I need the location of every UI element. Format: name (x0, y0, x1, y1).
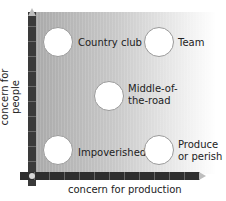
impoverished-circle (43, 135, 73, 165)
country-club-label: Country club (78, 37, 142, 49)
produce-or-perish-circle (144, 135, 174, 165)
middle-of-the-road-label-line-2: the-road (128, 95, 171, 107)
x-axis-arrow-icon (199, 172, 206, 180)
y-axis (28, 12, 36, 186)
team-circle (144, 27, 174, 57)
y-axis-arrow-icon (28, 8, 36, 16)
produce-or-perish-label-line-2: or perish (178, 151, 222, 163)
origin-dot-icon (29, 173, 35, 179)
y-axis-label: concern for people (0, 57, 21, 137)
x-axis (20, 172, 200, 180)
team-label: Team (178, 37, 204, 49)
x-axis-label: concern for production (68, 184, 182, 195)
produce-or-perish-label-line-1: Produce (178, 139, 218, 151)
middle-of-the-road-label-line-1: Middle-of- (128, 83, 178, 95)
country-club-circle (43, 27, 73, 57)
middle-of-the-road-circle (94, 81, 124, 111)
impoverished-label: Impoverished (78, 147, 146, 159)
